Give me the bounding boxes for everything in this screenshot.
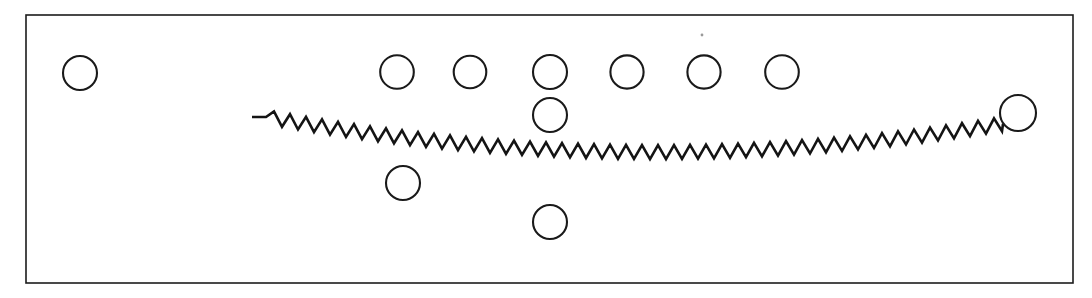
circle-2	[380, 55, 414, 89]
dust-speck	[701, 34, 704, 37]
circle-1	[63, 56, 97, 90]
circle-8	[533, 98, 567, 132]
circle-11	[1000, 95, 1036, 131]
speck-layer	[701, 34, 704, 37]
circle-5	[610, 55, 643, 88]
figure-canvas	[0, 0, 1092, 298]
circle-6	[687, 55, 720, 88]
circle-9	[386, 166, 420, 200]
circle-4	[533, 55, 567, 89]
circle-10	[533, 205, 567, 239]
zigzag-layer	[252, 111, 1003, 159]
circle-3	[454, 56, 487, 89]
zigzag-line	[252, 111, 1003, 159]
line-art-diagram	[0, 0, 1092, 298]
circle-7	[765, 55, 799, 89]
